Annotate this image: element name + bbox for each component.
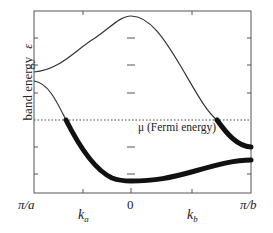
- upper-band-occupied: [217, 120, 251, 147]
- subscript-b: b: [193, 214, 198, 224]
- subscript-a: a: [84, 214, 89, 224]
- band-structure-plot: [0, 0, 273, 233]
- x-tick-left: π/a: [18, 198, 35, 211]
- x-tick-right: π/b: [240, 198, 257, 211]
- y-axis-label: band energyε: [20, 32, 36, 132]
- upper-band-curve: [34, 16, 217, 120]
- lower-band-curve: [34, 81, 66, 120]
- y-axis-label-text: band energy: [20, 57, 35, 121]
- x-tick-center: 0: [127, 198, 134, 211]
- x-label-kb: kb: [187, 208, 198, 224]
- epsilon-symbol: ε: [20, 44, 35, 49]
- x-label-ka: ka: [78, 208, 89, 224]
- fermi-annotation: μ (Fermi energy): [138, 121, 216, 133]
